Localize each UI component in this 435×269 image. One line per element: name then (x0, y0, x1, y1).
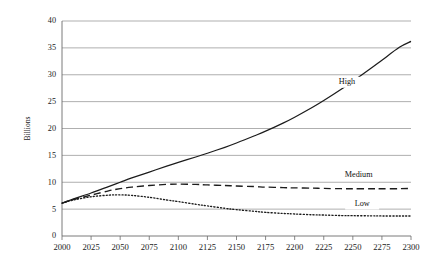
line-chart: 0510152025303540 20002025205020752100212… (0, 0, 435, 269)
y-tick-label-20: 20 (48, 124, 56, 133)
y-tick-label-35: 35 (48, 43, 56, 52)
y-tick-label-40: 40 (48, 16, 56, 25)
series-label-medium: Medium (345, 170, 373, 179)
y-tick-label-0: 0 (52, 231, 56, 240)
x-tick-label-2225: 2225 (315, 242, 332, 252)
y-tick-label-5: 5 (52, 205, 56, 214)
x-tick-label-2250: 2250 (344, 242, 361, 252)
chart-container: 0510152025303540 20002025205020752100212… (0, 0, 435, 269)
y-axis-title: Billions (23, 116, 32, 140)
y-tick-label-30: 30 (48, 70, 56, 79)
x-tick-label-2175: 2175 (257, 242, 274, 252)
x-tick-label-2050: 2050 (112, 242, 129, 252)
x-tick-label-2000: 2000 (53, 242, 70, 252)
x-tick-label-2100: 2100 (170, 242, 187, 252)
x-tick-label-2075: 2075 (141, 242, 158, 252)
x-tick-label-2150: 2150 (228, 242, 245, 252)
series-label-low: Low (355, 199, 370, 208)
y-tick-label-15: 15 (48, 151, 56, 160)
x-tick-label-2025: 2025 (82, 242, 99, 252)
x-tick-label-2275: 2275 (373, 242, 390, 252)
chart-background (0, 0, 435, 269)
y-tick-label-25: 25 (48, 97, 56, 106)
x-tick-label-2300: 2300 (402, 242, 419, 252)
y-tick-label-10: 10 (48, 178, 56, 187)
x-tick-label-2200: 2200 (286, 242, 303, 252)
x-tick-label-2125: 2125 (199, 242, 216, 252)
series-label-high: High (339, 77, 355, 86)
